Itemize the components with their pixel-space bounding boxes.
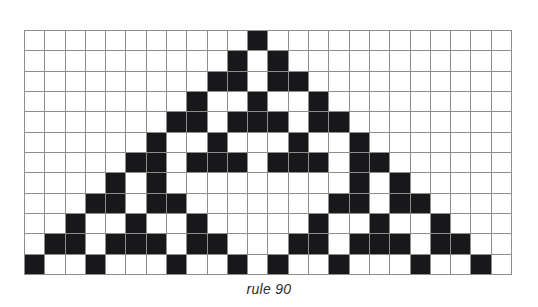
grid-cell-dead (492, 92, 512, 112)
grid-cell-dead (411, 173, 431, 193)
grid-cell-dead (492, 255, 512, 275)
grid-cell-dead (370, 112, 390, 132)
grid-cell-dead (370, 255, 390, 275)
grid-cell-dead (208, 173, 228, 193)
grid-cell-dead (451, 214, 471, 234)
grid-cell-dead (289, 31, 309, 51)
grid-cell-dead (66, 255, 86, 275)
grid-cell-dead (289, 214, 309, 234)
grid-cell-live (329, 255, 349, 275)
grid-cell-dead (289, 92, 309, 112)
grid-cell-dead (167, 133, 187, 153)
grid-cell-dead (248, 214, 268, 234)
grid-cell-live (106, 173, 126, 193)
grid-cell-dead (167, 31, 187, 51)
grid-cell-live (167, 112, 187, 132)
grid-cell-dead (411, 112, 431, 132)
grid-cell-dead (187, 255, 207, 275)
grid-cell-dead (126, 255, 146, 275)
grid-cell-dead (187, 51, 207, 71)
grid-cell-dead (309, 133, 329, 153)
grid-cell-dead (329, 133, 349, 153)
grid-cell-dead (431, 72, 451, 92)
grid-cell-dead (492, 72, 512, 92)
grid-cell-dead (411, 234, 431, 254)
grid-cell-dead (25, 214, 45, 234)
grid-cell-dead (431, 92, 451, 112)
grid-cell-dead (167, 234, 187, 254)
grid-cell-dead (147, 31, 167, 51)
grid-cell-live (350, 133, 370, 153)
grid-cell-live (106, 194, 126, 214)
grid-cell-dead (471, 173, 491, 193)
grid-cell-dead (187, 133, 207, 153)
grid-cell-dead (45, 72, 65, 92)
grid-cell-dead (106, 214, 126, 234)
grid-cell-live (390, 173, 410, 193)
grid-cell-live (471, 255, 491, 275)
grid-cell-dead (268, 173, 288, 193)
grid-cell-live (350, 194, 370, 214)
grid-cell-live (187, 214, 207, 234)
grid-cell-dead (208, 51, 228, 71)
grid-cell-dead (187, 194, 207, 214)
grid-cell-dead (167, 72, 187, 92)
grid-cell-dead (451, 255, 471, 275)
grid-cell-dead (126, 31, 146, 51)
grid-cell-dead (370, 133, 390, 153)
grid-cell-dead (66, 51, 86, 71)
grid-cell-dead (248, 234, 268, 254)
grid-cell-dead (66, 31, 86, 51)
grid-cell-dead (329, 234, 349, 254)
grid-cell-dead (451, 92, 471, 112)
grid-cell-live (228, 51, 248, 71)
grid-cell-dead (390, 92, 410, 112)
grid-cell-dead (86, 133, 106, 153)
grid-cell-dead (25, 112, 45, 132)
grid-cell-dead (147, 51, 167, 71)
grid-cell-dead (309, 72, 329, 92)
grid-cell-live (370, 153, 390, 173)
grid-cell-dead (106, 153, 126, 173)
grid-cell-live (370, 234, 390, 254)
grid-cell-dead (25, 133, 45, 153)
grid-cell-dead (268, 92, 288, 112)
grid-cell-live (228, 72, 248, 92)
grid-cell-dead (471, 194, 491, 214)
grid-cell-dead (390, 51, 410, 71)
grid-cell-dead (492, 31, 512, 51)
grid-cell-dead (248, 173, 268, 193)
grid-cell-dead (25, 173, 45, 193)
grid-cell-live (451, 234, 471, 254)
grid-cell-live (167, 255, 187, 275)
cellular-automaton-grid (24, 30, 512, 275)
grid-cell-dead (86, 153, 106, 173)
grid-cell-dead (86, 31, 106, 51)
grid-cell-dead (86, 72, 106, 92)
grid-cell-dead (228, 214, 248, 234)
grid-cell-live (350, 173, 370, 193)
grid-cell-dead (471, 72, 491, 92)
grid-cell-live (25, 255, 45, 275)
grid-cell-dead (289, 112, 309, 132)
grid-cell-dead (411, 153, 431, 173)
grid-cell-dead (431, 51, 451, 71)
grid-cell-live (390, 194, 410, 214)
grid-cell-dead (431, 133, 451, 153)
grid-cell-dead (411, 51, 431, 71)
grid-cell-dead (228, 92, 248, 112)
grid-cell-live (268, 255, 288, 275)
grid-cell-live (431, 214, 451, 234)
grid-cell-dead (25, 234, 45, 254)
grid-cell-dead (25, 31, 45, 51)
grid-cell-dead (147, 255, 167, 275)
grid-cell-dead (45, 133, 65, 153)
grid-cell-dead (126, 194, 146, 214)
grid-cell-dead (431, 153, 451, 173)
grid-cell-dead (350, 255, 370, 275)
grid-cell-dead (147, 112, 167, 132)
grid-cell-live (289, 153, 309, 173)
grid-cell-dead (106, 72, 126, 92)
grid-cell-live (268, 72, 288, 92)
grid-cell-dead (471, 51, 491, 71)
